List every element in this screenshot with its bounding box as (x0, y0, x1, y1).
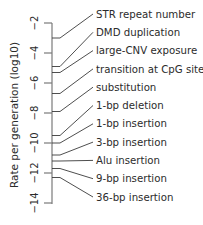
point-label: DMD duplication (96, 27, 180, 38)
y-axis-title: Rate per generation (log10) (8, 42, 20, 188)
y-tick-label: −4 (29, 46, 40, 61)
leader-line (52, 142, 93, 155)
y-tick-label: −14 (29, 192, 40, 213)
point-label: transition at CpG site (96, 64, 203, 75)
point-label: 3-bp insertion (96, 137, 167, 148)
leader-line (52, 178, 93, 198)
leader-lines (52, 14, 93, 197)
leader-line (52, 124, 93, 143)
y-tick-label: −10 (29, 132, 40, 153)
leader-line (52, 87, 93, 111)
point-label: 36-bp insertion (96, 192, 173, 203)
y-axis-ticks: −2−4−6−8−10−12−14 (29, 16, 52, 214)
point-label: Alu insertion (96, 155, 160, 166)
point-label: substitution (96, 82, 156, 93)
rate-chart: −2−4−6−8−10−12−14 STR repeat numberDMD d… (0, 0, 203, 225)
point-label: 1-bp deletion (96, 100, 164, 111)
point-label: STR repeat number (96, 9, 196, 20)
y-tick-label: −8 (29, 106, 40, 121)
point-labels: STR repeat numberDMD duplicationlarge-CN… (96, 9, 203, 203)
leader-line (52, 160, 93, 161)
leader-line (52, 106, 93, 136)
point-label: 1-bp insertion (96, 118, 167, 129)
y-tick-label: −6 (29, 76, 40, 91)
leader-line (52, 32, 93, 66)
point-label: large-CNV exposure (96, 45, 197, 56)
leader-line (52, 14, 93, 38)
y-tick-label: −2 (29, 16, 40, 31)
point-label: 9-bp insertion (96, 173, 167, 184)
y-tick-label: −12 (29, 162, 40, 183)
